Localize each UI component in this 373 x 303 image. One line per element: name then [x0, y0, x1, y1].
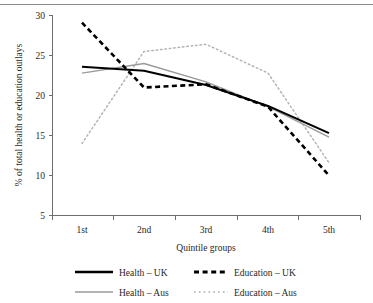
legend-item-health-aus: Health – Aus: [75, 288, 169, 298]
x-tick-label-1st: 1st: [76, 225, 87, 235]
x-tick-label-2nd: 2nd: [137, 225, 152, 235]
x-tick-label-3rd: 3rd: [200, 225, 213, 235]
line-chart: 30 25 20 15 10 5 1st 2nd 3rd 4th 5th Qui…: [0, 0, 373, 303]
y-tick-label-10: 10: [36, 171, 46, 181]
y-tick-label-25: 25: [36, 51, 46, 61]
x-axis-tick-labels: 1st 2nd 3rd 4th 5th: [76, 225, 335, 235]
x-tick-label-4th: 4th: [262, 225, 274, 235]
x-tick-label-5th: 5th: [323, 225, 335, 235]
y-tick-label-15: 15: [36, 131, 46, 141]
series-group: [82, 23, 329, 176]
x-axis-title: Quintile groups: [176, 243, 236, 253]
series-line-health-aus: [82, 64, 329, 138]
y-axis-ticks: [49, 16, 53, 216]
legend-item-education-aus: Education – Aus: [194, 288, 297, 298]
legend-label-health-aus: Health – Aus: [119, 288, 169, 298]
legend-label-education-uk: Education – UK: [234, 268, 296, 278]
chart-legend: Health – UK Education – UK Health – Aus …: [75, 268, 297, 298]
legend-item-health-uk: Health – UK: [75, 268, 168, 278]
y-tick-label-20: 20: [36, 91, 46, 101]
series-line-education-uk: [82, 23, 329, 176]
legend-label-education-aus: Education – Aus: [234, 288, 297, 298]
y-tick-label-30: 30: [36, 11, 46, 21]
legend-label-health-uk: Health – UK: [119, 268, 168, 278]
x-axis-ticks: [53, 216, 361, 220]
series-line-health-uk: [82, 67, 329, 133]
legend-item-education-uk: Education – UK: [194, 268, 296, 278]
y-axis-tick-labels: 30 25 20 15 10 5: [36, 11, 46, 221]
figure-container: 30 25 20 15 10 5 1st 2nd 3rd 4th 5th Qui…: [0, 0, 373, 303]
y-axis-title: % of total health or education outlays: [14, 43, 24, 186]
y-tick-label-5: 5: [40, 211, 45, 221]
